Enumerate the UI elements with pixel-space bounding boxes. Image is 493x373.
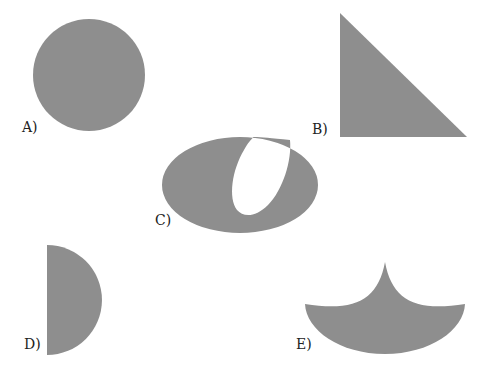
shapes-figure: A) B) C) D) E) bbox=[0, 0, 493, 373]
shape-e-arc-shape bbox=[305, 262, 465, 354]
label-b: B) bbox=[312, 122, 328, 136]
shape-c-ellipse-cutout bbox=[162, 137, 318, 233]
shape-d-half-disc bbox=[47, 245, 102, 355]
label-d: D) bbox=[24, 337, 41, 351]
shape-b-triangle bbox=[340, 13, 467, 137]
shapes-svg bbox=[0, 0, 493, 373]
shape-a-circle bbox=[33, 19, 145, 131]
label-c: C) bbox=[155, 213, 171, 227]
label-e: E) bbox=[296, 337, 312, 351]
label-a: A) bbox=[22, 120, 38, 134]
